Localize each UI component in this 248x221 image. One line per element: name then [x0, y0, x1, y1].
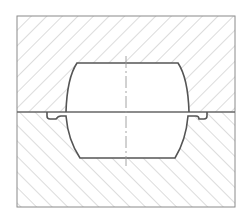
forging-die-diagram — [0, 0, 248, 221]
workpiece-cavity — [66, 63, 189, 158]
